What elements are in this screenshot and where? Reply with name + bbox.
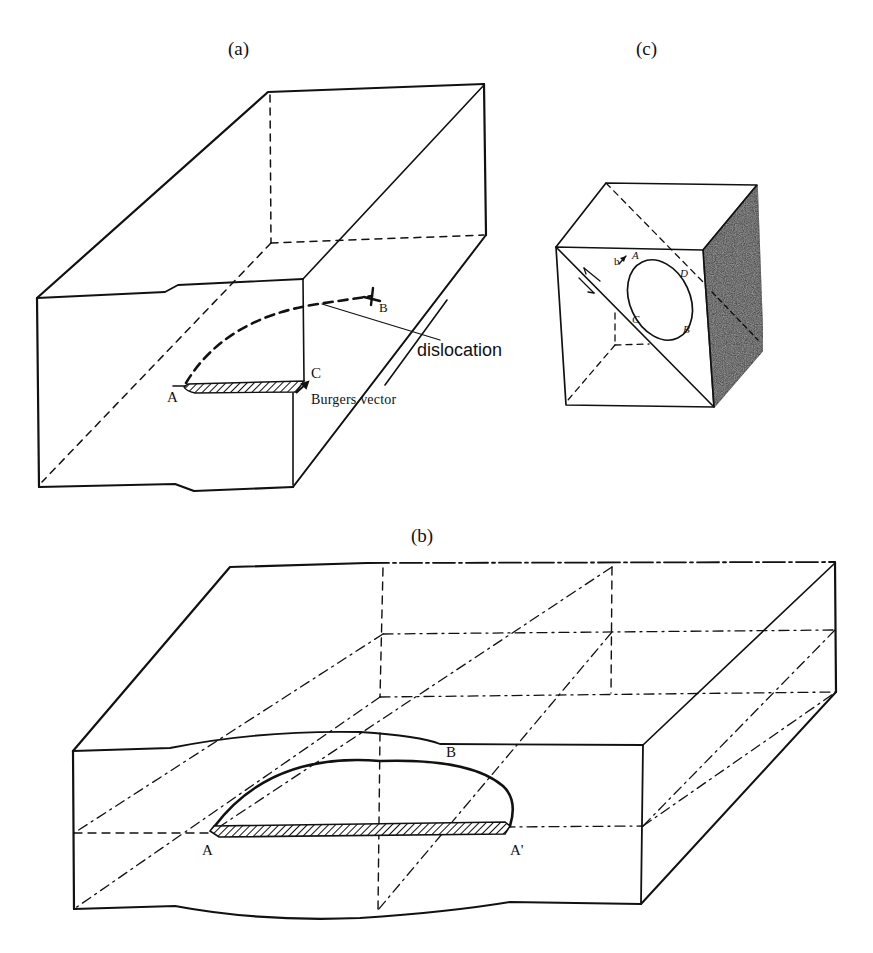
panel-a-block — [37, 84, 486, 491]
slip-area-b — [210, 822, 510, 837]
point-a-label: A — [167, 390, 178, 405]
dislocation-annotation: dislocation — [417, 341, 502, 359]
b-point-a-prime-label: A' — [510, 843, 524, 858]
figure-canvas — [0, 0, 873, 953]
burgers-vector-annotation: Burgers vector — [311, 393, 396, 407]
b-point-b-label: B — [446, 745, 456, 760]
c-point-a-label: A — [632, 250, 639, 261]
c-burgers-b-label: b — [614, 256, 620, 267]
panel-a-label: (a) — [228, 39, 249, 58]
panel-c-cube — [556, 183, 763, 407]
point-b-label: B — [379, 301, 388, 314]
point-c-label: C — [311, 366, 321, 381]
c-point-c-label: C — [632, 314, 639, 325]
panel-c-label: (c) — [636, 39, 657, 58]
panel-b-slab — [73, 562, 836, 919]
slip-area-a — [184, 381, 304, 393]
c-point-b-label: B — [683, 324, 690, 335]
b-point-a-label: A — [202, 843, 213, 858]
panel-b-label: (b) — [411, 526, 433, 545]
c-point-d-label: D — [680, 268, 688, 279]
